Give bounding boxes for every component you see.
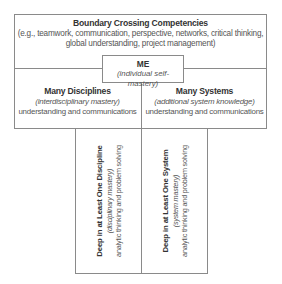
deep-discipline-description: analytic thinking and problem solving — [113, 131, 123, 271]
deep-discipline-subtitle: (disciplinary mastery) — [104, 131, 114, 271]
deep-system-subtitle: (system mastery) — [170, 131, 180, 271]
many-systems-subtitle: (additional system knowledge) — [142, 97, 267, 108]
many-disciplines-section: Many Disciplines (interdisciplinary mast… — [14, 86, 141, 118]
boundary-crossing-text: Boundary Crossing Competencies (e.g., te… — [14, 18, 267, 50]
many-systems-description: understanding and communications — [142, 107, 267, 118]
deep-discipline-title: Deep in at Least One Discipline — [94, 131, 104, 271]
deep-system-box: Deep in at Least One System (system mast… — [141, 128, 208, 274]
many-disciplines-description: understanding and communications — [14, 107, 141, 118]
deep-discipline-box: Deep in at Least One Discipline (discipl… — [75, 128, 142, 274]
me-box: ME (individual self-mastery) — [102, 55, 184, 83]
deep-system-description: analytic thinking and problem solving — [179, 131, 189, 271]
deep-discipline-text: Deep in at Least One Discipline (discipl… — [94, 131, 123, 271]
many-disciplines-subtitle: (interdisciplinary mastery) — [14, 97, 141, 108]
many-systems-section: Many Systems (additional system knowledg… — [142, 86, 267, 118]
me-title: ME — [103, 59, 183, 69]
many-disciplines-title: Many Disciplines — [14, 86, 141, 97]
boundary-crossing-examples-line1: (e.g., teamwork, communication, perspect… — [14, 29, 267, 40]
deep-system-text: Deep in at Least One System (system mast… — [160, 131, 189, 271]
boundary-crossing-examples-line2: global understanding, project management… — [14, 39, 267, 50]
boundary-crossing-title: Boundary Crossing Competencies — [14, 18, 267, 29]
many-systems-title: Many Systems — [142, 86, 267, 97]
deep-system-title: Deep in at Least One System — [160, 131, 170, 271]
